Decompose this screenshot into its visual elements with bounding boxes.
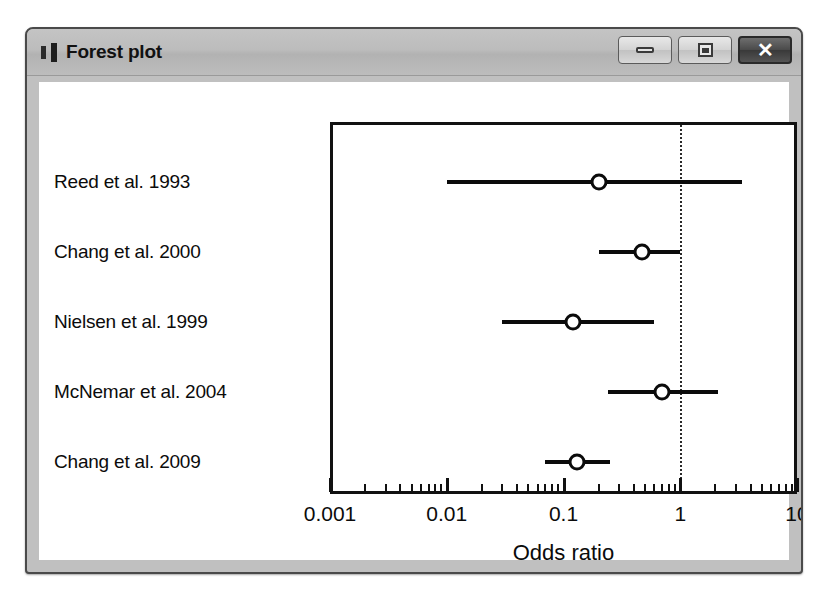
- minimize-icon: [636, 47, 654, 53]
- forest-plot-window: Forest plot ✕ Reed et al. 1993Chang et a…: [25, 27, 803, 574]
- axis-tick-minor: [481, 484, 483, 492]
- axis-tick-label: 1: [674, 502, 686, 526]
- axis-tick-minor: [633, 484, 635, 492]
- maximize-button[interactable]: [678, 36, 732, 64]
- axis-tick-minor: [399, 484, 401, 492]
- axis-tick-minor: [557, 484, 559, 492]
- client-area: Reed et al. 1993Chang et al. 2000Nielsen…: [39, 82, 789, 560]
- study-label: McNemar et al. 2004: [54, 381, 227, 403]
- window-bars-icon: [41, 43, 57, 62]
- study-label: Chang et al. 2000: [54, 241, 201, 263]
- axis-tick-minor: [434, 484, 436, 492]
- axis-tick-minor: [385, 484, 387, 492]
- close-button[interactable]: ✕: [738, 36, 792, 64]
- axis-tick-minor: [785, 484, 787, 492]
- title-bar[interactable]: Forest plot ✕: [27, 29, 801, 76]
- window-title: Forest plot: [66, 41, 162, 63]
- axis-tick-major: [796, 478, 799, 492]
- axis-tick-minor: [770, 484, 772, 492]
- axis-tick-major: [563, 478, 566, 492]
- axis-tick-minor: [440, 484, 442, 492]
- odds-ratio-marker: [568, 454, 585, 471]
- study-label: Chang et al. 2009: [54, 451, 201, 473]
- axis-tick-minor: [544, 484, 546, 492]
- study-label: Nielsen et al. 1999: [54, 311, 208, 333]
- axis-tick-label: 0.001: [304, 502, 357, 526]
- axis-tick-minor: [791, 484, 793, 492]
- axis-tick-minor: [428, 484, 430, 492]
- window-controls: ✕: [618, 36, 792, 64]
- axis-tick-minor: [537, 484, 539, 492]
- axis-tick-major: [446, 478, 449, 492]
- axis-tick-label: 0.01: [426, 502, 467, 526]
- forest-plot-figure: Reed et al. 1993Chang et al. 2000Nielsen…: [39, 82, 789, 560]
- axis-tick-minor: [761, 484, 763, 492]
- maximize-icon: [698, 43, 713, 57]
- study-label: Reed et al. 1993: [54, 171, 190, 193]
- axis-tick-label: 0.1: [549, 502, 578, 526]
- x-axis-title: Odds ratio: [513, 540, 615, 566]
- axis-tick-minor: [714, 484, 716, 492]
- axis-tick-minor: [750, 484, 752, 492]
- axis-tick-minor: [674, 484, 676, 492]
- axis-tick-minor: [735, 484, 737, 492]
- axis-tick-minor: [598, 484, 600, 492]
- close-icon: ✕: [757, 40, 774, 60]
- axis-tick-minor: [661, 484, 663, 492]
- axis-tick-minor: [364, 484, 366, 492]
- axis-tick-label: 10: [785, 502, 803, 526]
- axis-tick-minor: [644, 484, 646, 492]
- plot-frame: [330, 122, 797, 494]
- axis-tick-minor: [501, 484, 503, 492]
- axis-tick-minor: [653, 484, 655, 492]
- axis-tick-minor: [668, 484, 670, 492]
- odds-ratio-marker: [564, 314, 581, 331]
- axis-tick-minor: [411, 484, 413, 492]
- axis-tick-minor: [551, 484, 553, 492]
- axis-tick-major: [329, 478, 332, 492]
- minimize-button[interactable]: [618, 36, 672, 64]
- axis-tick-minor: [527, 484, 529, 492]
- odds-ratio-marker: [633, 244, 650, 261]
- odds-ratio-marker: [654, 384, 671, 401]
- odds-ratio-marker: [590, 174, 607, 191]
- axis-tick-minor: [516, 484, 518, 492]
- axis-tick-minor: [618, 484, 620, 492]
- axis-tick-major: [679, 478, 682, 492]
- axis-tick-minor: [420, 484, 422, 492]
- axis-tick-minor: [778, 484, 780, 492]
